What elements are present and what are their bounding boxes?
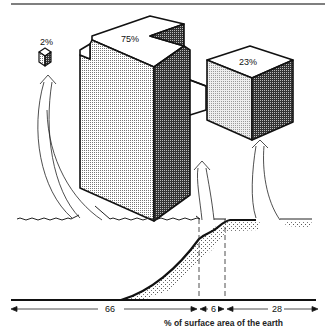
scale-caption: % of surface area of the earth (164, 318, 283, 328)
plateau-stipple (284, 221, 312, 228)
ice-percentage-label: 2% (40, 37, 53, 47)
scale-value-ocean: 66 (103, 304, 117, 314)
ocean-percentage-label: 75% (121, 34, 139, 44)
scale-value-shelf: 6 (209, 304, 218, 314)
ocean-block (80, 16, 206, 221)
ice-cube-icon (39, 48, 51, 66)
arrow-to-ocean-bottom (194, 161, 214, 220)
arrow-to-land-block (252, 140, 280, 220)
land-percentage-label: 23% (239, 57, 257, 67)
continental-slope-shading (121, 221, 260, 301)
surface-area-diagram (0, 0, 331, 332)
arrow-to-ice-cube (38, 75, 80, 218)
scale-value-land: 28 (270, 304, 284, 314)
